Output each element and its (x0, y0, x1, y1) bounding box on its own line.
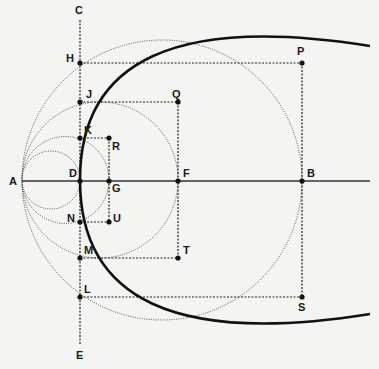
point-N (77, 219, 82, 224)
point-H (77, 60, 82, 65)
label-T: T (183, 244, 190, 256)
label-M: M (84, 244, 93, 256)
label-A: A (9, 175, 17, 187)
circle-AB (22, 40, 302, 320)
label-H: H (66, 52, 74, 64)
label-F: F (183, 167, 190, 179)
circle-AG (22, 137, 109, 224)
parabola-curve (80, 36, 370, 323)
construction-circles (22, 40, 302, 320)
point-D (77, 178, 82, 183)
label-K: K (84, 124, 92, 136)
point-K (77, 135, 82, 140)
point-F (175, 178, 180, 183)
point-R (106, 135, 111, 140)
point-U (106, 219, 111, 224)
circle-AD (22, 151, 80, 209)
parabola-construction-diagram: A C H J K D N M L E R G U Q F T P B S (0, 0, 379, 369)
circle-AF (22, 102, 178, 258)
label-D: D (69, 167, 77, 179)
point-J (77, 99, 82, 104)
points (77, 60, 304, 299)
construction-lines (80, 63, 302, 297)
label-N: N (67, 212, 75, 224)
label-R: R (112, 140, 120, 152)
point-M (77, 255, 82, 260)
label-P: P (297, 45, 304, 57)
label-U: U (113, 212, 121, 224)
label-S: S (298, 301, 305, 313)
point-P (299, 60, 304, 65)
point-Q (175, 99, 180, 104)
point-L (77, 294, 82, 299)
label-E: E (76, 349, 83, 361)
point-G (106, 178, 111, 183)
label-J: J (86, 88, 92, 100)
label-G: G (112, 182, 121, 194)
point-T (175, 255, 180, 260)
point-S (299, 294, 304, 299)
label-Q: Q (172, 88, 181, 100)
label-C: C (75, 4, 83, 16)
label-L: L (84, 283, 91, 295)
point-B (299, 178, 304, 183)
label-B: B (307, 167, 315, 179)
